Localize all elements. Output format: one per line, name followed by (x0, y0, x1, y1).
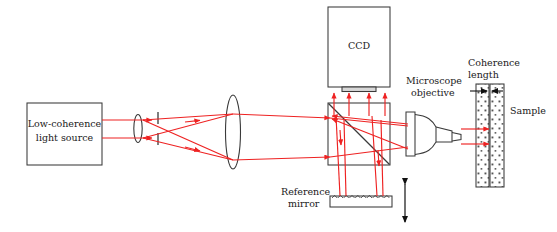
reference-mirror-label-line1: Reference (281, 186, 331, 197)
light-source-label-line1: Low-coherence (28, 118, 102, 129)
reference-mirror-label-line2: mirror (288, 198, 320, 209)
ray-cross-lower (143, 138, 233, 160)
microscope-objective-body (406, 112, 415, 156)
microscope-objective-nose (436, 127, 452, 142)
ray-bundle (102, 93, 489, 196)
ray-ref-2a (372, 116, 377, 196)
microscope-objective-label-line1: Microscope (406, 75, 462, 86)
coherence-length-label-line2: length (468, 69, 499, 80)
microscope-objective-label-line2: objective (411, 87, 455, 98)
sample-slab-right (490, 84, 504, 187)
figure-canvas: Low-coherence light source CCD Microscop… (0, 0, 557, 232)
ray-to-objective-lower (330, 147, 408, 157)
ray-cross-upper (143, 114, 233, 120)
optical-diagram: Low-coherence light source CCD Microscop… (0, 0, 557, 232)
ray-ref-head-2 (378, 150, 379, 166)
light-source-label-line2: light source (36, 132, 94, 143)
ray-expand-upper-head (185, 120, 200, 122)
ray-return-upper (332, 116, 408, 124)
ccd-sensor-element (342, 87, 376, 92)
coherence-length-label-line1: Coherence (468, 57, 520, 68)
ray-collimated-lower (233, 157, 330, 160)
ray-collimated-upper (233, 114, 330, 118)
ray-ref-1b (344, 120, 346, 196)
sample-slab-left (476, 84, 489, 187)
microscope-objective-taper (415, 115, 436, 155)
microscope-objective-tip (452, 133, 461, 142)
ray-to-objective-upper (330, 118, 408, 126)
ccd-label: CCD (348, 40, 371, 51)
sample-label: Sample (510, 105, 546, 116)
ray-ref-head-1 (340, 130, 341, 145)
